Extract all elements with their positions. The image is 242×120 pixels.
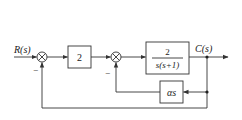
- summing-junction-1: [37, 52, 47, 62]
- block-diagram: R(s) C(s) 2 2 s(s+1) αs − −: [0, 0, 242, 120]
- gain-block-label: 2: [77, 52, 82, 63]
- rate-feedback-label: αs: [167, 87, 176, 98]
- summing-junction-2: [111, 52, 121, 62]
- output-label: C(s): [195, 43, 213, 55]
- output-node-dot: [205, 55, 208, 58]
- plant-numerator: 2: [165, 47, 170, 57]
- sum1-minus-sign: −: [33, 65, 38, 75]
- outer-feedback-line: [42, 63, 207, 109]
- sum2-minus-sign: −: [105, 68, 110, 78]
- inner-feedback-return-line: [116, 63, 160, 93]
- input-label: R(s): [13, 44, 31, 56]
- plant-denominator: s(s+1): [156, 60, 180, 70]
- inner-feedback-node-dot: [205, 90, 208, 93]
